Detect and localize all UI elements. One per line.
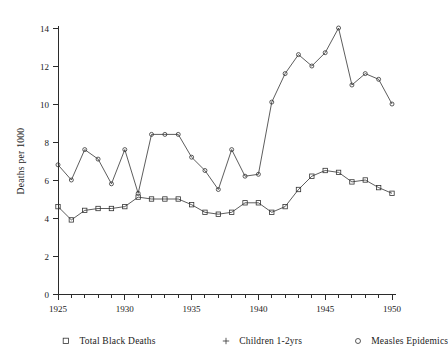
x-tick-label: 1930	[116, 304, 135, 314]
series-line	[58, 28, 392, 193]
y-axis-title: Deaths per 1000	[16, 128, 26, 195]
y-tick-label: 10	[40, 100, 50, 110]
legend-circle-icon	[352, 335, 364, 347]
x-tick-label: 1950	[383, 304, 402, 314]
legend-label: Children 1-2yrs	[239, 336, 302, 346]
x-axis-tick-labels: 192519301935194019451950	[49, 304, 402, 314]
legend-item: Total Black Deaths	[60, 335, 155, 347]
x-tick-label: 1925	[49, 304, 68, 314]
y-tick-label: 12	[40, 62, 49, 72]
y-tick-label: 8	[45, 138, 50, 148]
legend-label: Total Black Deaths	[79, 336, 155, 346]
legend-label: Measles Epidemics	[371, 336, 448, 346]
axes	[53, 26, 396, 300]
legend-plus-icon	[220, 335, 232, 347]
y-tick-label: 4	[45, 214, 50, 224]
y-axis-title-text: Deaths per 1000	[16, 128, 26, 195]
square-glyph	[64, 338, 69, 343]
x-tick-label: 1945	[316, 304, 335, 314]
series-2	[56, 168, 394, 222]
legend-square-icon	[60, 335, 72, 347]
y-tick-label: 2	[45, 252, 50, 262]
series-1	[56, 26, 394, 195]
chart-legend: Total Black DeathsChildren 1-2yrsMeasles…	[0, 330, 426, 352]
legend-item: Children 1-2yrs	[220, 335, 302, 347]
y-axis-tick-labels: 02468101214	[40, 24, 50, 300]
x-tick-label: 1940	[249, 304, 268, 314]
circle-glyph	[356, 339, 361, 344]
y-tick-label: 14	[40, 24, 50, 34]
data-series	[56, 26, 394, 222]
y-tick-label: 6	[45, 176, 50, 186]
y-tick-label: 0	[45, 290, 50, 300]
x-tick-label: 1935	[183, 304, 202, 314]
legend-item: Measles Epidemics	[352, 335, 448, 347]
